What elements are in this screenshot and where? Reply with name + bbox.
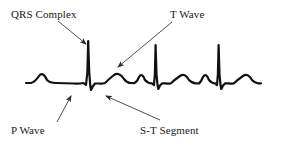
- st-segment-label: S-T Segment: [140, 124, 199, 136]
- qrs-complex-label: QRS Complex: [11, 8, 77, 20]
- t-wave-label: T Wave: [170, 8, 204, 20]
- ecg-trace-path: [26, 41, 261, 90]
- p-wave-label: P Wave: [11, 124, 45, 136]
- t-wave-arrow: [118, 22, 172, 67]
- ecg-diagram-figure: QRS Complex T Wave P Wave S-T Segment: [0, 0, 281, 145]
- qrs-complex-arrow: [58, 21, 86, 44]
- p-wave-arrow: [57, 96, 71, 122]
- st-segment-arrow: [106, 96, 160, 120]
